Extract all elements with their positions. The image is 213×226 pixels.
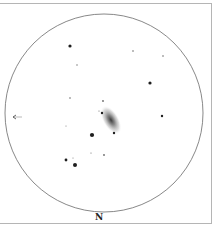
north-label: N <box>94 212 104 222</box>
star <box>73 158 74 159</box>
star <box>90 133 94 137</box>
star <box>148 81 151 84</box>
star <box>98 110 99 111</box>
star <box>102 100 104 102</box>
star <box>113 132 115 134</box>
star <box>68 44 71 47</box>
star <box>162 55 164 57</box>
eyepiece-sketch: N <box>0 0 213 226</box>
star <box>69 97 71 99</box>
star <box>73 163 77 167</box>
star <box>103 154 105 156</box>
star <box>132 50 134 52</box>
star <box>76 64 77 65</box>
left-arrow-icon <box>13 115 22 119</box>
star-field <box>65 44 164 167</box>
star <box>161 115 163 117</box>
galaxy <box>96 102 126 138</box>
star <box>90 152 91 153</box>
star <box>65 159 68 162</box>
star <box>101 112 103 114</box>
field-of-view <box>0 0 213 226</box>
star <box>66 126 67 127</box>
